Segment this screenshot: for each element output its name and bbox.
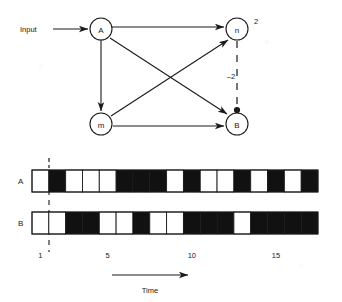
row-label-A: A [18,177,24,186]
raster-cell [217,170,234,192]
row-label-B: B [18,219,23,228]
inhibitory-weight-label: –2 [227,72,235,81]
raster-row-B [32,212,318,234]
node-A-label: A [98,26,104,35]
figure-canvas: A n m B Input 2 –2 A B 151015 [0,0,342,302]
edge-A-to-B [110,38,227,114]
raster-cell [167,212,184,234]
raster-cell [82,212,99,234]
raster-cell [301,212,318,234]
raster-row-A [32,170,318,192]
raster-cell [99,212,116,234]
raster-cell [183,170,200,192]
raster-cell [66,212,83,234]
raster-cell [234,170,251,192]
raster-cell [200,212,217,234]
timing-plot: A B 151015 Time [18,158,318,295]
raster-cell [200,170,217,192]
time-axis-ticks: 151015 [38,251,280,260]
time-tick-label: 5 [106,251,110,260]
node-n-label: n [235,26,239,35]
raster-cell [284,212,301,234]
raster-cell [66,170,83,192]
raster-cell [116,212,133,234]
raster-cell [49,170,66,192]
node-n-weight-label: 2 [254,17,258,26]
input-label: Input [20,25,38,34]
raster-cell [251,170,268,192]
raster-cell [32,212,49,234]
raster-cell [217,212,234,234]
raster-cell [133,212,150,234]
network-diagram: A n m B Input 2 –2 [20,17,258,135]
raster-cell [284,170,301,192]
raster-cell [150,170,167,192]
time-tick-label: 1 [38,251,42,260]
node-m-label: m [98,121,105,130]
raster-cell [150,212,167,234]
raster-cell [268,170,285,192]
raster-cell [49,212,66,234]
edge-m-to-n [111,40,228,116]
node-B-label: B [234,121,239,130]
raster-cell [183,212,200,234]
raster-cell [167,170,184,192]
raster-cell [116,170,133,192]
time-tick-label: 10 [188,251,196,260]
raster-cell [32,170,49,192]
raster-cell [301,170,318,192]
time-axis-label: Time [142,286,158,295]
raster-cell [234,212,251,234]
raster-cell [133,170,150,192]
raster-cell [99,170,116,192]
time-tick-label: 15 [272,251,280,260]
raster-cell [82,170,99,192]
raster-cell [251,212,268,234]
figure-root: A n m B Input 2 –2 A B 151015 [0,0,342,302]
raster-cell [268,212,285,234]
